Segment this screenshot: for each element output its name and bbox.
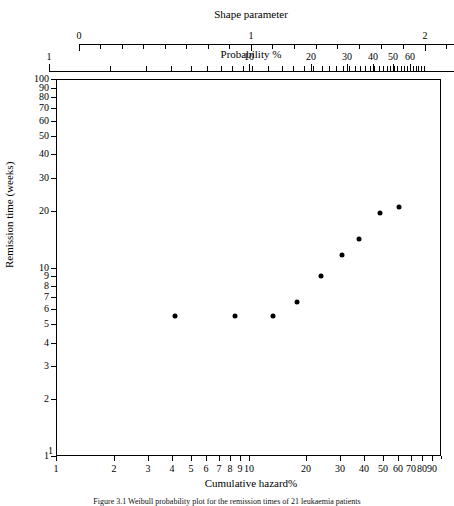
probability-axis-minor-tick	[110, 66, 111, 71]
shape-axis-tick-label: 2	[423, 31, 428, 41]
probability-axis-minor-tick	[329, 66, 330, 71]
x-axis-title: Cumulative hazard%	[205, 478, 298, 489]
y-axis-tick-label: 90	[39, 83, 49, 93]
y-axis-tick	[51, 309, 56, 310]
shape-axis-tick	[186, 44, 187, 49]
plot-area	[56, 79, 441, 456]
y-axis-tick-label: 7	[44, 292, 49, 302]
y-axis-tick	[51, 276, 56, 277]
y-axis-tick	[51, 366, 56, 367]
probability-axis-tick-label: 50	[388, 52, 398, 62]
x-axis-tick	[441, 456, 442, 459]
shape-axis-tick	[143, 44, 144, 49]
x-axis-tick-label: 30	[335, 464, 345, 474]
shape-axis-tick	[122, 44, 123, 49]
probability-axis-minor-tick	[379, 66, 380, 71]
probability-axis-tick	[410, 64, 411, 71]
x-axis-tick	[230, 456, 231, 461]
x-axis-tick	[383, 456, 384, 461]
probability-axis-tick-label: 60	[405, 52, 415, 62]
shape-parameter-axis-title: Shape parameter	[214, 9, 288, 20]
shape-axis-tick	[79, 44, 80, 51]
x-axis-tick-label: 9	[238, 464, 243, 474]
data-point	[271, 314, 276, 319]
probability-axis-minor-tick	[418, 66, 419, 71]
probability-axis-minor-tick	[374, 66, 375, 71]
x-axis-tick	[219, 456, 220, 461]
y-axis-tick-label: 3	[44, 361, 49, 371]
probability-axis-minor-tick	[413, 66, 414, 71]
x-axis-tick-label: 8	[228, 464, 233, 474]
probability-axis-minor-tick	[404, 66, 405, 71]
y-axis-tick-label: 40	[39, 149, 49, 159]
x-axis-tick-label: 4	[170, 464, 175, 474]
shape-axis-line	[79, 44, 454, 45]
probability-axis-minor-tick	[349, 66, 350, 71]
x-axis-tick-label: 1	[54, 464, 59, 474]
x-axis-tick	[240, 456, 241, 461]
y-axis-tick	[51, 178, 56, 179]
shape-axis-tick-label: 1	[249, 31, 254, 41]
y-axis-tick-label: 30	[39, 173, 49, 183]
y-axis-tick	[51, 121, 56, 122]
probability-axis-minor-tick	[416, 66, 417, 71]
y-axis-tick-label: 70	[39, 103, 49, 113]
probability-axis-tick-label: 1	[47, 52, 52, 62]
probability-axis-minor-tick	[343, 66, 344, 71]
y-axis-tick-label: 20	[39, 206, 49, 216]
data-point	[397, 205, 402, 210]
shape-axis-tick	[294, 44, 295, 49]
y-axis-tick-label: 100	[34, 74, 49, 84]
y-axis-tick	[51, 97, 56, 98]
y-axis-tick-label: 6	[44, 304, 49, 314]
probability-axis-tick	[347, 64, 348, 71]
x-axis-tick	[432, 456, 433, 461]
x-axis-tick-label: 5	[189, 464, 194, 474]
x-axis-tick-label: 40	[359, 464, 369, 474]
probability-axis-minor-tick	[407, 66, 408, 71]
probability-axis-minor-tick	[365, 66, 366, 71]
data-point	[340, 253, 345, 258]
x-axis-tick-label: 20	[301, 464, 311, 474]
y-axis-tick-label: 5	[44, 319, 49, 329]
probability-axis-minor-tick	[232, 66, 233, 71]
shape-axis-tick	[208, 44, 209, 49]
shape-axis-tick	[165, 44, 166, 49]
probability-axis-tick	[373, 64, 374, 71]
probability-axis-minor-tick	[221, 66, 222, 71]
x-axis-tick	[191, 456, 192, 461]
probability-axis-minor-tick	[304, 66, 305, 71]
probability-axis-minor-tick	[336, 66, 337, 71]
data-point	[357, 237, 362, 242]
x-axis-tick	[249, 456, 250, 461]
x-axis-tick	[172, 456, 173, 461]
x-axis-tick-label: 3	[146, 464, 151, 474]
y-axis-tick	[51, 79, 56, 80]
x-axis-tick-label: 70	[406, 464, 416, 474]
x-axis-tick	[398, 456, 399, 461]
probability-axis-minor-tick	[207, 66, 208, 71]
x-axis-tick	[340, 456, 341, 461]
y-axis-tick	[51, 136, 56, 137]
x-axis-tick-label: 50	[378, 464, 388, 474]
probability-axis-minor-tick	[383, 66, 384, 71]
y-axis-tick	[51, 324, 56, 325]
probability-axis-minor-tick	[293, 66, 294, 71]
x-axis-tick	[114, 456, 115, 461]
x-axis-tick	[206, 456, 207, 461]
y-axis-tick	[51, 297, 56, 298]
probability-axis-line	[49, 71, 454, 72]
y-axis-tick-label: 80	[39, 92, 49, 102]
x-axis-tick	[422, 456, 423, 461]
y-axis-title: Remission time (weeks)	[4, 162, 15, 268]
probability-axis-tick-label: 20	[306, 52, 316, 62]
probability-axis-minor-tick	[401, 66, 402, 71]
probability-axis-minor-tick	[394, 66, 395, 71]
probability-axis-minor-tick	[397, 66, 398, 71]
y-axis-tick-label: 8	[44, 281, 49, 291]
x-axis-tick-label: 6	[204, 464, 209, 474]
probability-axis-minor-tick	[424, 66, 425, 71]
x-axis-tick-label: 2	[112, 464, 117, 474]
data-point	[173, 314, 178, 319]
data-point	[319, 274, 324, 279]
